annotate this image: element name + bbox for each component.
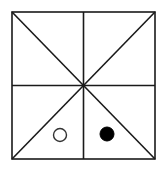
board-diagram [0,0,167,173]
filled-circle-piece [100,127,114,141]
hollow-circle-piece [54,129,67,142]
